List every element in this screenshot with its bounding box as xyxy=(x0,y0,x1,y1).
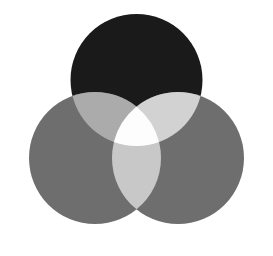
venn-canvas xyxy=(0,0,273,256)
venn-diagram-figure xyxy=(0,0,273,256)
